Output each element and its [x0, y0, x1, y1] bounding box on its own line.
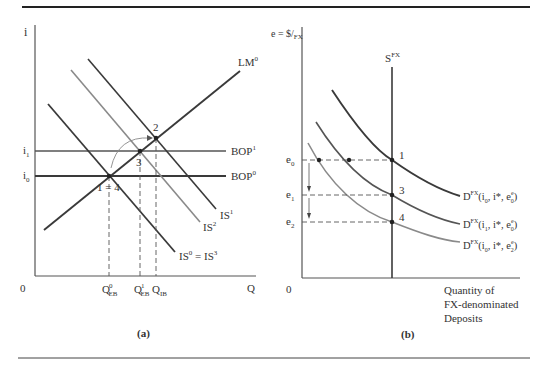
down-arrow-icon [307, 186, 311, 192]
demand-label-i0-e2: DFX(i0, i*, ee2) [463, 239, 518, 253]
is2-curve [71, 70, 200, 222]
tick-q-eb0: Q0EB [102, 282, 118, 298]
point-2-label: 2 [153, 121, 159, 133]
panel-a-x-label: Q [247, 282, 255, 294]
panel-a: i 0 Q i1 i0 BOP1 BOP0 IS1 IS2 IS0 = IS3 … [20, 25, 259, 340]
demand-curve-i0-e2 [308, 143, 460, 242]
tick-i1: i1 [23, 144, 30, 159]
point-1-4-label: 1 = 4 [97, 181, 120, 193]
point-3-b [390, 193, 395, 198]
panel-b-x-label-2: FX-denominated [444, 298, 519, 310]
panel-b-x-label-3: Deposits [444, 312, 483, 324]
panel-b-y-label: e = $/FX [271, 28, 303, 41]
demand-label-i1-e0: DFX(i1, i*, ee0) [463, 218, 518, 232]
down-arrow-icon [307, 213, 311, 219]
point-2 [154, 136, 159, 141]
tick-e1: e1 [286, 188, 295, 203]
tick-e2: e2 [286, 215, 295, 230]
bop1-label: BOP1 [231, 144, 256, 157]
point-3-a-label: 3 [136, 156, 142, 168]
point-4-b [390, 220, 395, 225]
point-1-b [390, 158, 395, 163]
panel-b-origin: 0 [286, 283, 292, 295]
tick-q-ib: QIB [152, 283, 167, 298]
point-e0-curve3 [317, 158, 321, 162]
demand-curve-i1-e0 [316, 122, 460, 224]
tick-e0: e0 [286, 153, 295, 168]
panel-b-caption: (b) [401, 328, 415, 341]
lm0-label: LM0 [238, 55, 259, 68]
point-1-b-label: 1 [399, 149, 405, 161]
panel-a-y-label: i [24, 25, 28, 39]
point-4-b-label: 4 [399, 211, 405, 223]
tick-i0: i0 [23, 169, 30, 184]
panel-a-caption: (a) [137, 327, 150, 340]
is0-is3-label: IS0 = IS3 [179, 249, 218, 262]
diagram-canvas: i 0 Q i1 i0 BOP1 BOP0 IS1 IS2 IS0 = IS3 … [0, 0, 544, 365]
point-e0-curve2 [347, 158, 351, 162]
bop0-label: BOP0 [231, 169, 256, 182]
demand-curve-i0-e0 [332, 90, 460, 196]
is2-label: IS2 [203, 220, 217, 233]
demand-label-i0-e0: DFX(i0, i*, ee0) [463, 190, 518, 204]
arrow-head-icon [147, 135, 153, 141]
shift-arrow-arc [111, 138, 150, 168]
tick-q-eb1: Q1EB [134, 282, 150, 298]
is1-label: IS1 [220, 208, 234, 221]
point-3-b-label: 3 [399, 184, 405, 196]
supply-fx-label: SFX [385, 51, 400, 64]
panel-b-x-label-1: Quantity of [444, 284, 495, 296]
point-1-4 [107, 174, 112, 179]
panel-b: e = $/FX 0 Quantity of FX-denominated De… [271, 27, 520, 341]
point-3-a [138, 149, 143, 154]
panel-a-origin: 0 [20, 282, 26, 294]
